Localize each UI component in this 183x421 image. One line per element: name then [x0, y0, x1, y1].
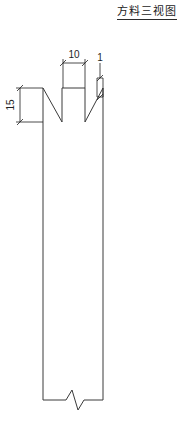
break-line	[43, 390, 103, 410]
drawing-canvas: 方料三视图 10	[0, 0, 183, 421]
technical-drawing: 10 15 1	[0, 0, 183, 421]
dim1-label: 1	[97, 52, 103, 63]
v-notch-left	[43, 88, 62, 122]
v-notch-right	[85, 88, 103, 122]
dim10-label: 10	[68, 49, 80, 60]
dimension-15	[16, 85, 43, 125]
part-outline	[43, 88, 103, 410]
dimension-10	[60, 59, 88, 88]
dim15-label: 15	[5, 99, 16, 111]
